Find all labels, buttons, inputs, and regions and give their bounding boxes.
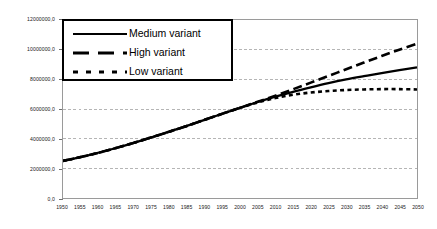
x-axis-tick-label: 1980 — [163, 204, 175, 211]
x-axis-tick-label: 2040 — [377, 204, 389, 211]
x-axis-tick-label: 1970 — [127, 204, 139, 211]
x-axis-tick-label: 2005 — [252, 204, 264, 211]
population-projection-chart: 0,02000000,04000000,06000000,08000000,01… — [0, 0, 437, 229]
x-axis-tick-label: 1995 — [216, 204, 228, 211]
legend-label: Medium variant — [129, 28, 201, 39]
legend-item-low-variant: Low variant — [64, 62, 231, 81]
y-axis-labels: 0,02000000,04000000,06000000,08000000,01… — [0, 0, 59, 229]
series-line-medium-variant — [63, 67, 417, 160]
legend-label: High variant — [129, 47, 185, 58]
x-axis-tick-label: 1955 — [74, 204, 86, 211]
x-axis-tick-label: 2035 — [359, 204, 371, 211]
y-axis-tick-label: 8000000,0 — [30, 76, 55, 82]
x-axis-tick-label: 2025 — [323, 204, 335, 211]
x-axis-labels: 1950195519601965197019751980198519901995… — [0, 204, 437, 216]
y-axis-tick-label: 10000000,0 — [27, 46, 55, 52]
x-axis-tick-label: 1975 — [145, 204, 157, 211]
x-axis-tick-label: 2010 — [270, 204, 282, 211]
x-axis-tick-label: 1950 — [56, 204, 68, 211]
x-axis-tick-label: 1985 — [181, 204, 193, 211]
x-axis-tick-label: 2015 — [288, 204, 300, 211]
x-axis-tick-label: 1960 — [92, 204, 104, 211]
x-axis-tick-label: 2045 — [394, 204, 406, 211]
x-axis-tick-label: 1965 — [110, 204, 122, 211]
legend-item-high-variant: High variant — [64, 43, 231, 62]
y-axis-tick-label: 12000000,0 — [27, 16, 55, 22]
x-axis-tick-label: 1990 — [199, 204, 211, 211]
y-axis-tick-label: 0,0 — [48, 196, 55, 202]
chart-legend: Medium variantHigh variantLow variant — [62, 19, 233, 81]
x-axis-tick-label: 2000 — [234, 204, 246, 211]
y-axis-tick-label: 6000000,0 — [30, 106, 55, 112]
x-axis-tick-label: 2050 — [412, 204, 424, 211]
legend-swatch-dotted-icon — [72, 67, 128, 77]
x-axis-tick-label: 2020 — [305, 204, 317, 211]
y-axis-tick-label: 2000000,0 — [30, 166, 55, 172]
legend-item-medium-variant: Medium variant — [64, 24, 231, 43]
series-line-low-variant — [63, 89, 417, 161]
y-axis-tick-label: 4000000,0 — [30, 136, 55, 142]
legend-swatch-dashed-icon — [72, 48, 128, 58]
x-axis-tick-label: 2030 — [341, 204, 353, 211]
legend-label: Low variant — [129, 66, 183, 77]
legend-swatch-solid-icon — [72, 29, 128, 39]
